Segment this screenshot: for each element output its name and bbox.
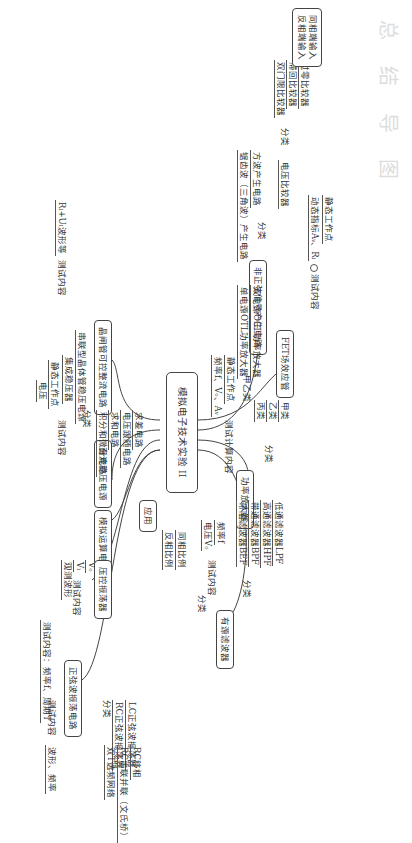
opamp-classify: 分类: [197, 595, 207, 613]
node-scr-rectifier[interactable]: 晶闸管可控整流电路: [94, 320, 112, 415]
dc-test-item: 静态工作点: [48, 360, 60, 409]
comparator-node: 电压比较器: [278, 160, 290, 209]
comparator-classify: 分类: [280, 128, 290, 146]
filter-classify: 分类: [242, 580, 252, 598]
scr-item: Rₗ+Uₗ波形等: [55, 200, 67, 256]
filter-type: 高通滤波器HPF: [260, 500, 272, 568]
power-ab-type: 双电源OCL功率放大器: [250, 285, 262, 380]
dc-type: 集成稳压器: [62, 355, 74, 404]
square-wave-node: 方波产生电路: [250, 150, 262, 208]
filter-test-item: 频率f: [214, 520, 226, 545]
sine-classify: 分类: [102, 700, 112, 718]
power-test: 测试计算内容: [224, 420, 234, 474]
opamp-test-item: 观测波形: [61, 560, 73, 600]
sawtooth-node: 锯齿波（三角波）产生电路: [237, 150, 249, 262]
filter-type: 低通滤波器LPF: [272, 500, 284, 566]
power-test-item: 频率f、Vₒ、Aᵥ: [211, 355, 223, 417]
node-sine-osc[interactable]: 正弦波振荡电路: [64, 660, 82, 737]
power-class: 甲类: [278, 400, 290, 422]
opamp-type: 同相比例: [175, 530, 187, 570]
comparator-type: 滞回比较器: [286, 60, 298, 109]
opamp-app: 电压跟随电路: [120, 410, 132, 468]
sine-rc-type: RC移相: [130, 745, 142, 780]
sine-test-item: 波形、频率: [45, 745, 57, 794]
power-classify: 分类: [264, 445, 274, 463]
comparator-type: 过零比较器: [298, 60, 310, 109]
power-test-item: 静态工作点: [224, 355, 236, 404]
filter-type: 带阻滤波器BEF: [236, 500, 248, 567]
power-class: 乙类: [266, 400, 278, 422]
opamp-apply: 应用: [139, 500, 157, 532]
filter-test: 测试内容: [207, 560, 217, 596]
sine-test: 测试内容: [47, 700, 57, 736]
fet-item: 静态工作点: [322, 195, 334, 244]
scr-test: 测试内容: [57, 260, 67, 296]
root-node[interactable]: 模拟电子技术实验 II: [166, 372, 198, 493]
filter-type: 带通滤波器BPF: [248, 500, 260, 567]
collapse-icon[interactable]: [311, 264, 319, 272]
node-active-filter[interactable]: 有源滤波器: [216, 610, 234, 669]
input-node: 同相端输入反相端输入: [292, 8, 322, 67]
node-fet[interactable]: FET场效应管: [276, 330, 294, 398]
opamp-app: 求差电路: [132, 410, 144, 450]
sine-rc-type: 双T选频网络: [104, 745, 116, 800]
opamp-app: 求和电路: [108, 410, 120, 450]
opamp-type: 反相比例: [162, 530, 174, 570]
comparator-type: 双门限比较器: [274, 60, 286, 118]
fet-item: 动态指标Aᵥ、Rᵢ: [308, 195, 320, 261]
dc-test: 测试内容: [57, 420, 67, 456]
filter-test-item: 电压Vₒ: [201, 520, 213, 551]
opamp-test-item: Vᵢ: [73, 560, 85, 572]
nonsine-classify: 分类: [257, 222, 267, 240]
power-ab-type: 单电源OTL功率放大器: [237, 285, 249, 379]
dc-test-item: 电压: [36, 380, 48, 402]
opamp-test: 测试内容: [72, 580, 82, 616]
fet-test-label: 测试内容: [310, 262, 320, 310]
sine-rc-type: RC串联并联（文氏桥）: [117, 745, 129, 843]
opamp-app: 积分和微分电路: [96, 410, 108, 477]
power-class: 丙类: [254, 400, 266, 422]
node-vco[interactable]: 压控振荡器: [94, 560, 112, 619]
dc-type: 串联型晶体管稳压电源: [75, 330, 87, 424]
